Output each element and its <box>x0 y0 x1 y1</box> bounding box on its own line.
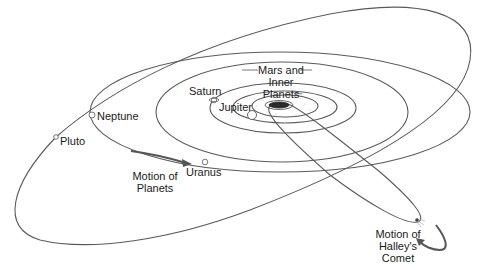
label-neptune: Neptune <box>97 110 139 122</box>
label-mars-inner-line2: Inner <box>256 76 306 88</box>
label-motion-comet-line2: Halley's <box>368 240 428 252</box>
label-pluto: Pluto <box>60 135 85 147</box>
label-saturn: Saturn <box>189 85 221 97</box>
uranus-icon <box>202 159 208 165</box>
sun-icon <box>269 102 289 108</box>
solar-system-diagram: Mars and Inner Planets Saturn Jupiter Ne… <box>0 0 484 270</box>
neptune-icon <box>89 112 95 118</box>
pluto-icon <box>54 135 59 140</box>
saturn-icon <box>209 97 219 103</box>
label-uranus: Uranus <box>186 166 221 178</box>
label-mars-inner-line1: Mars and <box>256 64 306 76</box>
label-jupiter: Jupiter <box>219 101 252 113</box>
label-motion-planets-line1: Motion of <box>120 170 190 182</box>
label-motion-comet-line1: Motion of <box>368 228 428 240</box>
label-mars-inner-line3: Planets <box>256 88 306 100</box>
label-motion-comet-line3: Comet <box>368 252 428 264</box>
label-motion-planets-line2: Planets <box>120 182 190 194</box>
